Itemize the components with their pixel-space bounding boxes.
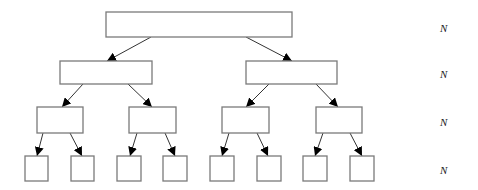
tree-node-level4-7 <box>303 156 327 181</box>
level-label-1: N <box>440 22 447 34</box>
arrow-edge-12 <box>257 133 268 156</box>
arrow-edge-11 <box>222 133 229 156</box>
arrow-edge-6 <box>316 84 338 107</box>
arrow-edge-2 <box>246 37 292 61</box>
arrow-edge-10 <box>165 133 175 156</box>
edges-group <box>37 37 362 156</box>
arrow-edge-8 <box>70 133 82 156</box>
arrow-edge-1 <box>107 37 151 61</box>
tree-node-level3-1 <box>37 107 83 133</box>
tree-node-level4-4 <box>163 156 187 181</box>
arrow-edge-3 <box>62 84 83 107</box>
arrow-edge-7 <box>37 133 43 156</box>
tree-node-level1-1 <box>106 12 292 37</box>
nodes-group <box>25 12 374 181</box>
arrow-edge-4 <box>128 84 152 107</box>
arrow-edge-13 <box>315 133 323 156</box>
arrow-edge-9 <box>130 133 137 156</box>
tree-node-level4-1 <box>25 156 48 181</box>
tree-node-level2-2 <box>246 61 337 84</box>
level-label-2: N <box>440 68 447 80</box>
tree-diagram <box>0 0 478 190</box>
tree-node-level3-2 <box>129 107 176 133</box>
level-label-4: N <box>440 164 447 176</box>
tree-node-level3-3 <box>222 107 269 133</box>
tree-node-level3-4 <box>316 107 362 133</box>
tree-node-level4-2 <box>71 156 94 181</box>
tree-node-level2-1 <box>60 61 152 84</box>
level-label-3: N <box>440 116 447 128</box>
tree-node-level4-6 <box>257 156 281 181</box>
tree-node-level4-3 <box>117 156 141 181</box>
arrow-edge-5 <box>246 84 269 107</box>
arrow-edge-14 <box>350 133 362 156</box>
tree-node-level4-5 <box>210 156 234 181</box>
tree-node-level4-8 <box>350 156 374 181</box>
